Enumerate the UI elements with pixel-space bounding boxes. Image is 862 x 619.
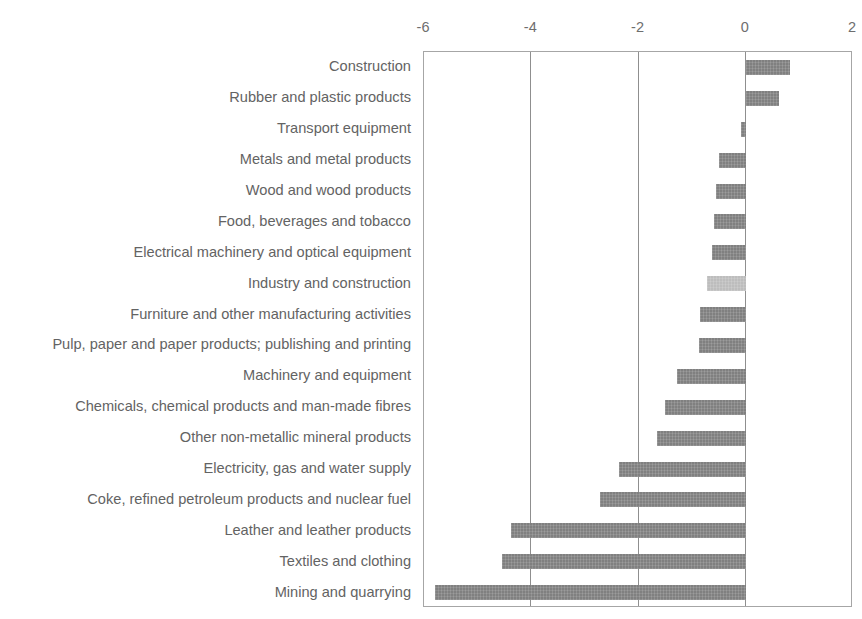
x-tick-label: 2 [848, 18, 856, 36]
category-label: Coke, refined petroleum products and nuc… [0, 491, 417, 507]
category-label: Other non-metallic mineral products [0, 429, 417, 445]
bar [677, 369, 746, 384]
category-label: Metals and metal products [0, 151, 417, 167]
bar [719, 153, 745, 168]
category-label: Machinery and equipment [0, 367, 417, 383]
category-label: Industry and construction [0, 275, 417, 291]
bar [435, 585, 745, 600]
cutoff-header-text [0, 0, 862, 5]
bar [712, 245, 746, 260]
category-axis-labels: ConstructionRubber and plastic productsT… [0, 51, 417, 607]
bar [741, 122, 745, 137]
x-tick-label: -2 [631, 18, 644, 36]
bar [665, 400, 745, 415]
plot-area [423, 51, 852, 607]
bar [657, 431, 745, 446]
bar [707, 276, 746, 291]
bar [619, 462, 746, 477]
x-tick-label: 0 [741, 18, 749, 36]
category-label: Mining and quarrying [0, 584, 417, 600]
bar [746, 60, 791, 75]
bar [714, 214, 746, 229]
bar [700, 307, 746, 322]
category-label: Leather and leather products [0, 522, 417, 538]
category-label: Rubber and plastic products [0, 89, 417, 105]
bar [511, 523, 745, 538]
bar [600, 492, 745, 507]
bar [746, 91, 779, 106]
x-tick-label: -6 [417, 18, 430, 36]
category-label: Pulp, paper and paper products; publishi… [0, 336, 417, 352]
category-label: Chemicals, chemical products and man-mad… [0, 398, 417, 414]
bar [502, 554, 745, 569]
category-label: Food, beverages and tobacco [0, 213, 417, 229]
category-label: Textiles and clothing [0, 553, 417, 569]
x-tick-label: -4 [524, 18, 537, 36]
x-axis-tick-labels: -6-4-202 [0, 18, 862, 38]
category-label: Construction [0, 58, 417, 74]
category-label: Electrical machinery and optical equipme… [0, 244, 417, 260]
category-label: Transport equipment [0, 120, 417, 136]
category-label: Wood and wood products [0, 182, 417, 198]
category-label: Electricity, gas and water supply [0, 460, 417, 476]
bar [716, 184, 746, 199]
bar [699, 338, 746, 353]
category-label: Furniture and other manufacturing activi… [0, 306, 417, 322]
horizontal-bar-chart: -6-4-202 ConstructionRubber and plastic … [0, 0, 862, 619]
